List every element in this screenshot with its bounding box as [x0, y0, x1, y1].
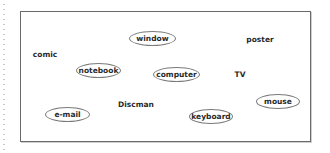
circled-word-keyboard: keyboard: [189, 109, 233, 124]
word-tv: TV: [235, 70, 246, 79]
circled-word-email: e-mail: [45, 107, 90, 122]
circled-word-computer: computer: [153, 67, 200, 82]
word-comic: comic: [33, 50, 57, 59]
word-poster: poster: [246, 35, 273, 44]
circled-word-window: window: [129, 31, 176, 46]
circled-word-notebook: notebook: [76, 63, 121, 78]
dotted-margin: [3, 2, 5, 152]
word-discman: Discman: [118, 100, 154, 109]
circled-word-mouse: mouse: [256, 94, 300, 109]
